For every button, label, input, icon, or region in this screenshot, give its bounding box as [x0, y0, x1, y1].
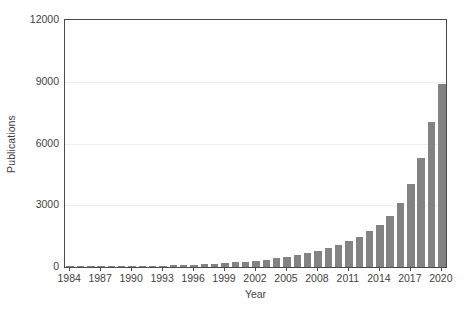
bar — [221, 263, 228, 267]
plot-area — [64, 19, 447, 268]
bar — [97, 266, 104, 267]
x-tick-label: 1984 — [57, 272, 80, 284]
x-tick-mark — [286, 268, 287, 271]
bar — [304, 253, 311, 267]
x-tick-mark — [69, 268, 70, 271]
bar — [386, 216, 393, 267]
bar — [345, 241, 352, 267]
bar — [108, 266, 115, 267]
bar — [263, 260, 270, 267]
bar — [77, 266, 84, 267]
bar — [273, 258, 280, 267]
bar — [242, 262, 249, 267]
y-tick-label: 6000 — [36, 137, 59, 149]
x-tick-mark — [162, 268, 163, 271]
bar — [159, 266, 166, 267]
bar — [314, 251, 321, 267]
x-tick-label: 2020 — [429, 272, 452, 284]
bar — [201, 264, 208, 267]
bar — [335, 245, 342, 267]
x-tick-mark — [193, 268, 194, 271]
bar — [87, 266, 94, 267]
x-tick-label: 1996 — [181, 272, 204, 284]
bar — [190, 265, 197, 267]
bar — [149, 266, 156, 267]
y-axis-title: Publications — [0, 0, 22, 288]
y-axis-title-text: Publications — [5, 115, 17, 173]
y-tick-label: 0 — [53, 260, 59, 272]
bar — [356, 237, 363, 267]
x-tick-label: 1987 — [88, 272, 111, 284]
x-tick-mark — [224, 268, 225, 271]
x-tick-label: 2008 — [305, 272, 328, 284]
bar — [325, 248, 332, 267]
x-tick-mark — [317, 268, 318, 271]
x-tick-mark — [348, 268, 349, 271]
bar — [66, 266, 73, 267]
bar — [118, 266, 125, 267]
x-tick-mark — [100, 268, 101, 271]
x-tick-mark — [441, 268, 442, 271]
bar — [376, 225, 383, 267]
x-tick-mark — [379, 268, 380, 271]
x-tick-label: 1990 — [119, 272, 142, 284]
bar — [170, 265, 177, 267]
bar — [407, 184, 414, 267]
bar — [232, 262, 239, 267]
bar-series — [65, 20, 447, 267]
plot-right-edge — [446, 20, 447, 267]
publications-bar-chart: Publications 030006000900012000 19841987… — [0, 0, 472, 319]
x-tick-label: 2002 — [243, 272, 266, 284]
x-tick-label: 2011 — [337, 272, 360, 284]
bar — [366, 231, 373, 267]
bar — [128, 266, 135, 267]
bar — [428, 122, 435, 267]
x-tick-label: 1993 — [150, 272, 173, 284]
bar — [252, 261, 259, 267]
x-axis-tick-labels: 1984198719901993199619992002200520082011… — [64, 268, 447, 288]
x-tick-label: 2014 — [367, 272, 390, 284]
x-tick-label: 1999 — [212, 272, 235, 284]
bar — [283, 257, 290, 267]
bar — [294, 255, 301, 267]
x-tick-mark — [255, 268, 256, 271]
x-tick-label: 2005 — [274, 272, 297, 284]
x-tick-label: 2017 — [398, 272, 421, 284]
bar — [180, 265, 187, 267]
bar — [438, 84, 445, 267]
x-tick-mark — [131, 268, 132, 271]
y-tick-label: 9000 — [36, 75, 59, 87]
x-tick-mark — [410, 268, 411, 271]
bar — [397, 203, 404, 267]
y-tick-label: 12000 — [30, 13, 59, 25]
bar — [139, 266, 146, 267]
y-tick-label: 3000 — [36, 198, 59, 210]
bar — [417, 158, 424, 267]
bar — [211, 264, 218, 267]
x-axis-title: Year — [64, 288, 447, 300]
